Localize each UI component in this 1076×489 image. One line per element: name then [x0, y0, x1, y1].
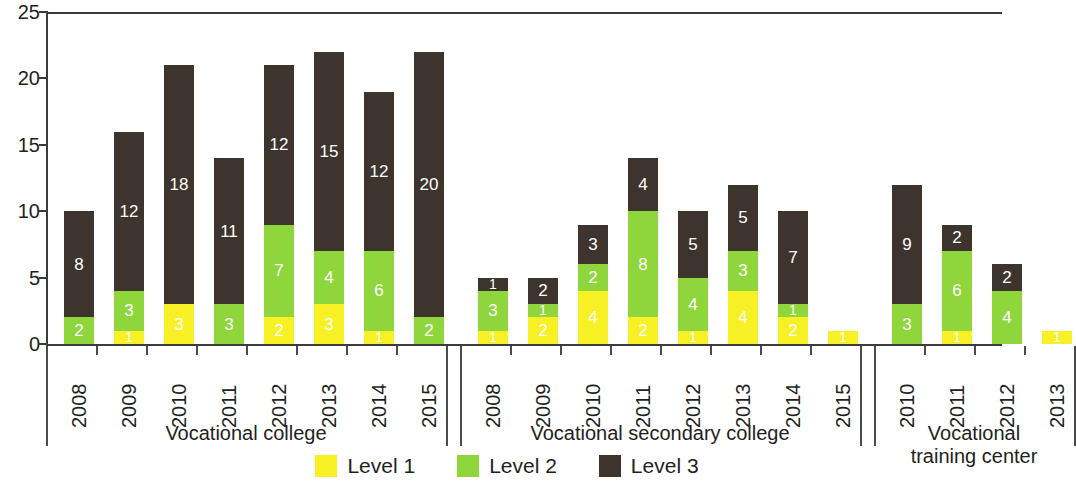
- bar-2015: 220: [414, 52, 444, 344]
- x-axis-tick: [710, 346, 712, 355]
- bar-2014: 1612: [364, 92, 394, 344]
- plot-top-border: [46, 12, 1002, 14]
- x-axis-label-2008: 2008: [481, 364, 505, 428]
- bar-segment-l3: 12: [264, 65, 294, 224]
- x-axis-tick: [1024, 346, 1026, 355]
- x-axis-tick: [196, 346, 198, 355]
- x-axis-label-2010: 2010: [581, 364, 605, 428]
- x-axis-label-2013: 2013: [317, 364, 341, 428]
- bar-segment-l3: 11: [214, 158, 244, 304]
- bar-segment-l3: 18: [164, 65, 194, 304]
- bar-2015: 1: [828, 331, 858, 344]
- bar-segment-value: 4: [1002, 309, 1011, 326]
- group-separator: [860, 346, 862, 446]
- x-axis-tick: [396, 346, 398, 355]
- bar-segment-l3: 5: [678, 211, 708, 277]
- bar-segment-l2: 1: [528, 304, 558, 317]
- x-axis-label-2010: 2010: [167, 364, 191, 428]
- bar-segment-value: 4: [588, 309, 597, 326]
- x-axis-label-2008: 2008: [67, 364, 91, 428]
- bar-segment-value: 3: [224, 316, 233, 333]
- group-separator: [446, 346, 448, 446]
- x-axis-tick: [974, 346, 976, 355]
- bar-segment-l3: 3: [578, 225, 608, 265]
- y-axis-tick-label: 25: [10, 2, 40, 22]
- x-axis-line: [46, 344, 1002, 346]
- x-axis-label-2012: 2012: [267, 364, 291, 428]
- bar-segment-l2: 3: [892, 304, 922, 344]
- bar-segment-value: 4: [738, 309, 747, 326]
- bar-segment-l2: 6: [942, 251, 972, 331]
- bar-segment-l3: 15: [314, 52, 344, 251]
- bar-segment-value: 2: [538, 282, 547, 299]
- bar-segment-l2: 2: [578, 264, 608, 291]
- bar-segment-value: 2: [424, 322, 433, 339]
- bar-segment-l1: 3: [314, 304, 344, 344]
- y-axis-tick-mark: [39, 144, 48, 146]
- bar-segment-l3: 9: [892, 185, 922, 305]
- y-axis-tick-mark: [39, 77, 48, 79]
- x-axis-label-2014: 2014: [781, 364, 805, 428]
- bar-2009: 212: [528, 278, 558, 344]
- bar-segment-value: 1: [953, 329, 961, 346]
- bar-segment-value: 3: [902, 316, 911, 333]
- bar-segment-l3: 2: [528, 278, 558, 305]
- bar-segment-l3: 12: [114, 132, 144, 291]
- bar-segment-value: 1: [1053, 329, 1061, 346]
- bar-2010: 423: [578, 225, 608, 344]
- bar-segment-l2: 4: [992, 291, 1022, 344]
- x-axis-label-2011: 2011: [945, 364, 969, 428]
- x-axis-tick: [760, 346, 762, 355]
- bar-segment-value: 2: [274, 322, 283, 339]
- x-axis-tick: [610, 346, 612, 355]
- x-axis-label-2013: 2013: [1045, 364, 1069, 428]
- bar-2013: 435: [728, 185, 758, 344]
- x-axis-tick: [246, 346, 248, 355]
- bar-segment-l1: 2: [264, 317, 294, 344]
- bar-2008: 28: [64, 211, 94, 344]
- x-axis-label-2015: 2015: [831, 364, 855, 428]
- bar-segment-value: 7: [274, 262, 283, 279]
- x-axis-tick: [660, 346, 662, 355]
- bar-segment-l1: 4: [578, 291, 608, 344]
- bar-segment-value: 3: [174, 316, 183, 333]
- bar-segment-value: 12: [120, 203, 139, 220]
- group-label: Vocational secondary college: [460, 422, 860, 445]
- bar-segment-value: 2: [952, 229, 961, 246]
- bar-segment-l2: 7: [264, 225, 294, 318]
- bar-segment-l2: 3: [214, 304, 244, 344]
- bar-segment-value: 2: [538, 322, 547, 339]
- x-axis-label-2011: 2011: [217, 364, 241, 428]
- x-axis-tick: [346, 346, 348, 355]
- legend-swatch-l1: [315, 455, 337, 477]
- x-axis-tick: [924, 346, 926, 355]
- bar-segment-l3: 4: [628, 158, 658, 211]
- x-axis-tick: [146, 346, 148, 355]
- bar-segment-value: 3: [124, 302, 133, 319]
- bar-segment-value: 2: [588, 269, 597, 286]
- bar-2012: 2712: [264, 65, 294, 344]
- legend-item[interactable]: Level 2: [457, 455, 557, 477]
- bar-segment-value: 1: [489, 329, 497, 346]
- bar-segment-value: 4: [324, 269, 333, 286]
- bar-segment-value: 18: [170, 176, 189, 193]
- legend-item[interactable]: Level 1: [315, 455, 415, 477]
- bar-segment-l1: 4: [728, 291, 758, 344]
- y-axis-tick-label: 15: [10, 135, 40, 155]
- bar-segment-value: 4: [688, 296, 697, 313]
- bar-segment-l3: 7: [778, 211, 808, 304]
- bar-segment-l3: 20: [414, 52, 444, 318]
- bar-segment-l2: 3: [728, 251, 758, 291]
- legend-item[interactable]: Level 3: [599, 455, 699, 477]
- bar-segment-l1: 1: [942, 331, 972, 344]
- legend-swatch-l2: [457, 455, 479, 477]
- bar-segment-l2: 8: [628, 211, 658, 317]
- bar-segment-l1: 2: [778, 317, 808, 344]
- bar-segment-l2: 2: [64, 317, 94, 344]
- x-axis-label-2014: 2014: [367, 364, 391, 428]
- bar-segment-value: 2: [788, 322, 797, 339]
- bar-2011: 284: [628, 158, 658, 344]
- x-axis-tick: [296, 346, 298, 355]
- y-axis-tick-mark: [39, 11, 48, 13]
